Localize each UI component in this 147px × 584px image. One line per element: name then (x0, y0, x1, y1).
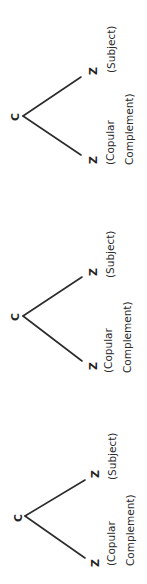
tree-3: C Z (Subject) Z (Copular Complement) (12, 433, 136, 567)
tree-2: C Z (Subject) Z (Copular Complement) (9, 231, 133, 373)
subject-node-z: Z (89, 470, 102, 478)
subject-label: (Subject) (105, 26, 117, 73)
subject-label: (Subject) (104, 231, 116, 278)
complement-node-z: Z (87, 362, 100, 370)
complement-label-line2: Complement) (124, 494, 136, 566)
subject-label: (Subject) (106, 433, 118, 480)
complement-label-line2: Complement) (121, 301, 133, 373)
branch-to-complement (25, 516, 85, 558)
subject-node-z: Z (87, 67, 100, 75)
branch-to-subject (23, 277, 82, 316)
complement-label-line1: (Copular (104, 119, 116, 165)
branch-to-complement (23, 116, 81, 155)
root-node-c: C (12, 514, 25, 522)
complement-node-z: Z (89, 559, 102, 567)
tree-1: C Z (Subject) Z (Copular Complement) (9, 26, 135, 165)
complement-label-line1: (Copular (105, 520, 117, 566)
root-node-c: C (9, 113, 22, 121)
branch-to-subject (23, 77, 81, 116)
tree-diagrams: C Z (Subject) Z (Copular Complement) C Z… (0, 0, 147, 584)
complement-label-line1: (Copular (102, 327, 114, 373)
branch-to-complement (23, 316, 82, 361)
complement-label-line2: Complement) (123, 93, 135, 165)
complement-node-z: Z (87, 156, 100, 164)
root-node-c: C (9, 313, 22, 321)
subject-node-z: Z (87, 268, 100, 276)
branch-to-subject (25, 480, 85, 516)
